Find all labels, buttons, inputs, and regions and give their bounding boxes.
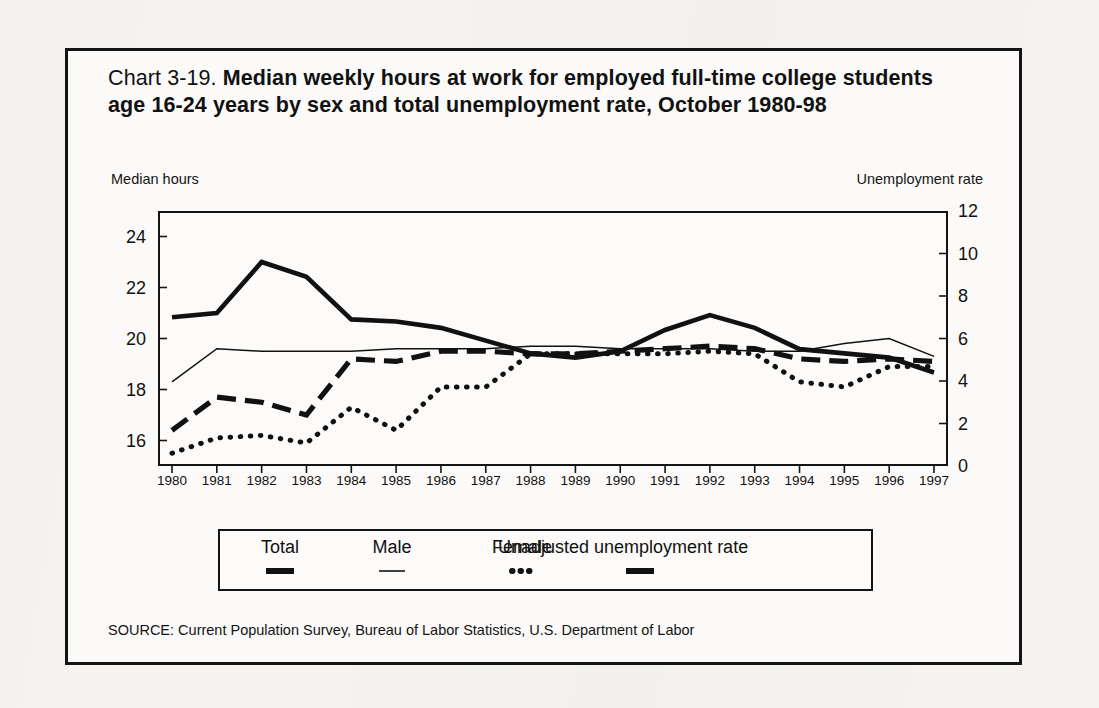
x-axis-tick-label: 1982	[247, 473, 277, 488]
x-axis-tick-label: 1988	[516, 473, 546, 488]
series-line-unadjusted-unemployment-rate	[172, 262, 934, 373]
y-axis-tick-label: 22	[106, 277, 146, 298]
legend-label: Male	[370, 537, 414, 558]
x-axis-tick-label: 1989	[560, 473, 590, 488]
series-line-total	[172, 346, 934, 430]
y-axis-tick-label: 20	[106, 328, 146, 349]
x-axis-tick-label: 1987	[471, 473, 501, 488]
series-line-female	[172, 351, 934, 453]
legend-swatch-thin-solid	[370, 566, 414, 576]
left-axis-caption: Median hours	[111, 171, 199, 187]
chart-title-text: Median weekly hours at work for employed…	[108, 66, 933, 117]
y2-axis-tick-label: 2	[958, 413, 998, 434]
y2-axis-tick-label: 0	[958, 456, 998, 477]
plot-area: 1618202224024681012198019811982198319841…	[158, 211, 948, 466]
x-axis-tick-label: 1986	[426, 473, 456, 488]
y2-axis-tick-label: 4	[958, 371, 998, 392]
chart-number: Chart 3-19.	[108, 66, 223, 90]
y2-axis-tick-label: 8	[958, 286, 998, 307]
y2-axis-tick-label: 6	[958, 328, 998, 349]
legend-total[interactable]: Total	[258, 537, 302, 576]
x-axis-tick-label: 1984	[336, 473, 366, 488]
figure-frame: Chart 3-19. Median weekly hours at work …	[65, 48, 1022, 665]
legend-male[interactable]: Male	[370, 537, 414, 576]
x-axis-tick-label: 1985	[381, 473, 411, 488]
page-title: Chart 3-19. Median weekly hours at work …	[108, 65, 968, 119]
x-axis-tick-label: 1997	[919, 473, 949, 488]
x-axis-tick-label: 1980	[157, 473, 187, 488]
x-axis-tick-label: 1994	[784, 473, 814, 488]
x-axis-tick-label: 1995	[829, 473, 859, 488]
x-axis-tick-label: 1983	[291, 473, 321, 488]
legend-swatch-thick-solid	[618, 566, 662, 576]
page-root: Chart 3-19. Median weekly hours at work …	[0, 0, 1099, 708]
right-axis-caption: Unemployment rate	[856, 171, 983, 187]
y-axis-tick-label: 18	[106, 379, 146, 400]
x-axis-tick-label: 1992	[695, 473, 725, 488]
y2-axis-tick-label: 12	[958, 201, 998, 222]
x-axis-tick-label: 1990	[605, 473, 635, 488]
legend-label: Total	[258, 537, 302, 558]
y-axis-tick-label: 24	[106, 226, 146, 247]
x-axis-tick-label: 1996	[874, 473, 904, 488]
legend-unemployment[interactable]: Unadjusted unemployment rate	[498, 537, 748, 576]
legend-swatch-thick-dash	[258, 566, 302, 576]
plot-lines	[158, 211, 948, 466]
x-axis-tick-label: 1991	[650, 473, 680, 488]
legend-label: Unadjusted unemployment rate	[498, 537, 748, 558]
source-note: SOURCE: Current Population Survey, Burea…	[108, 622, 694, 638]
y2-axis-tick-label: 10	[958, 243, 998, 264]
legend: TotalMaleFemaleUnadjusted unemployment r…	[218, 529, 873, 591]
y-axis-tick-label: 16	[106, 430, 146, 451]
x-axis-tick-label: 1981	[202, 473, 232, 488]
x-axis-tick-label: 1993	[740, 473, 770, 488]
